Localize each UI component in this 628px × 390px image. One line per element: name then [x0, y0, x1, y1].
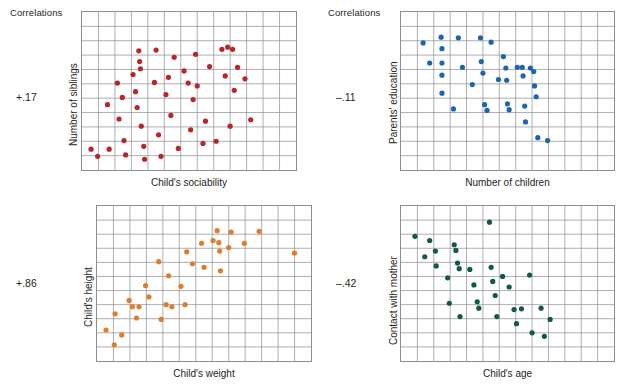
data-point — [457, 314, 462, 319]
correlation-value-bottom-left: +.86 — [16, 277, 37, 289]
data-point — [195, 83, 200, 88]
data-point — [168, 113, 173, 118]
data-point — [163, 92, 168, 97]
data-point — [142, 157, 147, 162]
data-point — [143, 283, 148, 288]
data-point — [201, 265, 206, 270]
data-point — [207, 64, 212, 69]
data-point — [158, 154, 163, 159]
data-point — [216, 240, 221, 245]
data-point — [439, 35, 444, 40]
scatter-canvas-siblings-vs-sociability — [82, 12, 296, 170]
correlation-value-top-left: +.17 — [16, 91, 37, 103]
data-point — [455, 260, 460, 265]
data-point — [127, 298, 132, 303]
data-point — [217, 248, 222, 253]
data-points — [88, 45, 253, 162]
data-point — [505, 101, 510, 106]
scatterplot-siblings-vs-sociability — [81, 11, 297, 171]
data-point — [186, 81, 191, 86]
data-point — [203, 119, 208, 124]
data-point — [470, 82, 475, 87]
data-point — [433, 248, 438, 253]
data-point — [520, 73, 525, 78]
data-point — [152, 80, 157, 85]
data-point — [103, 327, 108, 332]
data-point — [445, 275, 450, 280]
data-points — [103, 228, 297, 347]
data-point — [164, 302, 169, 307]
data-point — [471, 282, 476, 287]
data-point — [493, 293, 498, 298]
data-point — [489, 40, 494, 45]
correlations-header-top-right: Correlations — [328, 7, 380, 18]
data-point — [156, 259, 161, 264]
y-axis-label-bottom-left: Child's height — [83, 267, 94, 327]
data-point — [507, 107, 512, 112]
data-point — [542, 334, 547, 339]
data-point — [489, 265, 494, 270]
data-point — [427, 60, 432, 65]
x-axis-label-bottom-right: Child's age — [400, 368, 615, 379]
data-point — [225, 45, 230, 50]
data-point — [166, 75, 171, 80]
data-point — [439, 91, 444, 96]
grid-lines — [82, 12, 296, 170]
data-point — [139, 124, 144, 129]
data-point — [107, 147, 112, 152]
data-point — [456, 35, 461, 40]
correlation-value-bottom-right: –.42 — [336, 277, 356, 289]
grid-lines — [97, 206, 311, 361]
data-point — [166, 273, 171, 278]
data-point — [487, 220, 492, 225]
data-point — [242, 76, 247, 81]
grid-lines — [401, 12, 614, 170]
data-point — [229, 229, 234, 234]
data-point — [451, 106, 456, 111]
grid-lines — [401, 206, 614, 361]
data-point — [427, 238, 432, 243]
data-point — [130, 304, 135, 309]
data-point — [134, 315, 139, 320]
data-point — [248, 117, 253, 122]
data-point — [545, 138, 550, 143]
data-point — [133, 89, 138, 94]
data-point — [153, 47, 158, 52]
x-axis-label-bottom-left: Child's weight — [96, 368, 312, 379]
data-point — [120, 95, 125, 100]
data-point — [105, 102, 110, 107]
data-point — [210, 238, 215, 243]
data-point — [172, 55, 177, 60]
data-point — [188, 127, 193, 132]
data-point — [190, 261, 195, 266]
data-point — [159, 317, 164, 322]
data-point — [548, 317, 553, 322]
data-point — [181, 68, 186, 73]
data-point — [191, 97, 196, 102]
data-point — [136, 304, 141, 309]
data-point — [178, 284, 183, 289]
data-point — [176, 146, 181, 151]
data-point — [123, 152, 128, 157]
data-point — [439, 46, 444, 51]
data-point — [200, 141, 205, 146]
data-point — [226, 245, 231, 250]
data-point — [519, 306, 524, 311]
data-point — [292, 251, 297, 256]
y-axis-label-top-left: Number of siblings — [68, 63, 79, 146]
data-point — [218, 268, 223, 273]
data-point — [494, 314, 499, 319]
data-point — [479, 59, 484, 64]
data-point — [457, 266, 462, 271]
data-point — [522, 103, 527, 108]
data-point — [215, 228, 220, 233]
data-point — [232, 88, 237, 93]
data-point — [460, 65, 465, 70]
data-point — [478, 35, 483, 40]
data-point — [538, 306, 543, 311]
data-point — [532, 83, 537, 88]
data-point — [527, 272, 532, 277]
data-point — [503, 65, 508, 70]
data-point — [136, 48, 141, 53]
data-point — [193, 52, 198, 57]
